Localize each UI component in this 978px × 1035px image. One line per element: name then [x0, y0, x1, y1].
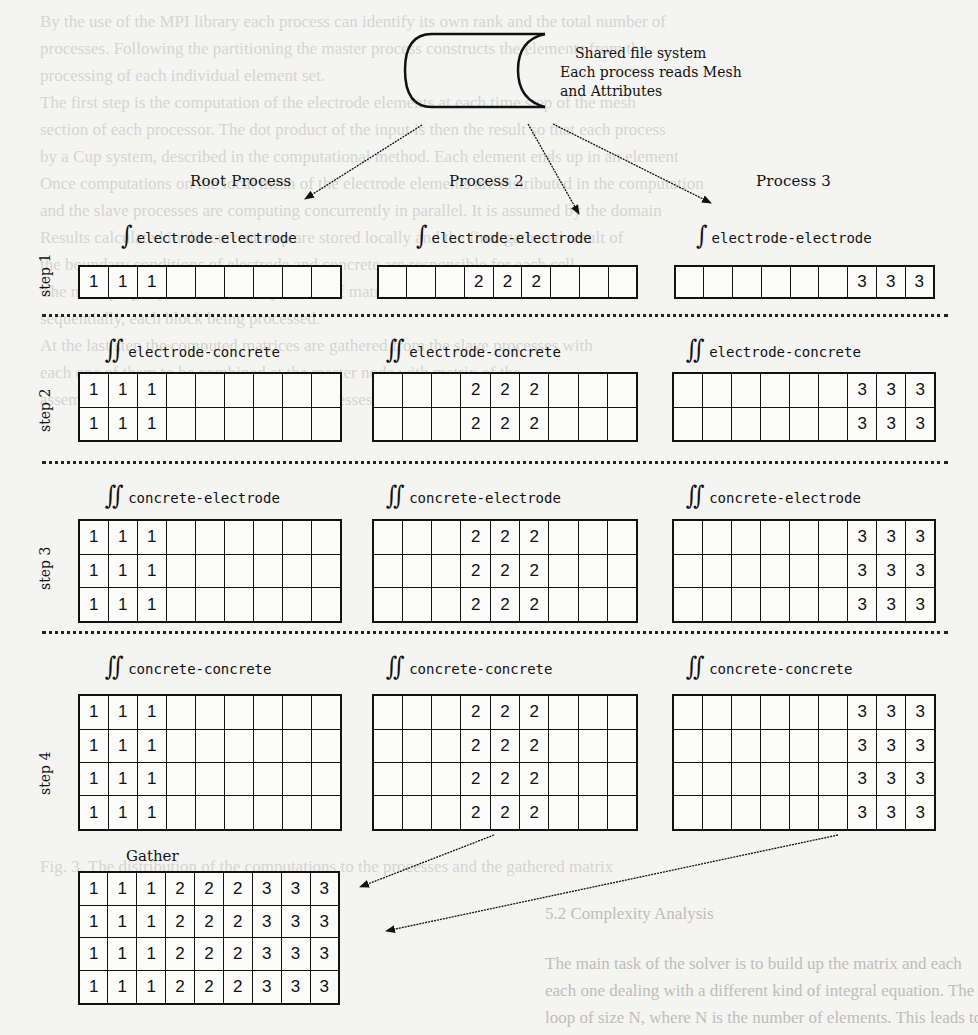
matrix-cell-filled: 1: [137, 695, 166, 729]
step-separator-1: [42, 314, 948, 317]
matrix-row: 222: [378, 266, 637, 298]
matrix-cell-empty: [733, 266, 762, 298]
double-integral-icon: ∬: [686, 338, 705, 360]
matrix-cell-filled: 3: [848, 729, 877, 762]
matrix-cell-filled: 1: [79, 554, 108, 587]
matrix-cell-empty: [225, 762, 254, 795]
double-integral-icon: ∬: [386, 338, 405, 360]
arrow-to-root-process: [305, 125, 422, 199]
matrix-cell-filled: 1: [137, 796, 166, 830]
matrix-cell-empty: [373, 729, 402, 762]
matrix-cell-filled: 2: [490, 695, 519, 729]
matrix-cell-empty: [789, 588, 818, 622]
matrix-cell-empty: [283, 588, 312, 622]
integral-term: concrete-electrode: [128, 490, 280, 506]
matrix-cell-empty: [702, 729, 731, 762]
matrix-step2-process2: 222222: [372, 372, 638, 442]
matrix-cell-filled: 1: [108, 872, 137, 905]
matrix-row: 111: [79, 266, 341, 298]
arrow-to-process-3: [553, 124, 711, 203]
matrix-cell-empty: [402, 729, 431, 762]
matrix-cell-empty: [578, 588, 607, 622]
matrix-row: 333: [673, 729, 935, 762]
matrix-row: 222: [373, 588, 637, 622]
matrix-cell-empty: [819, 520, 848, 554]
matrix-cell-empty: [578, 796, 607, 830]
matrix-cell-filled: 2: [461, 520, 490, 554]
step-4-label: step 4: [37, 752, 53, 795]
file-system-line-2: Each process reads Mesh: [560, 63, 742, 82]
matrix-cell-filled: 2: [520, 796, 549, 830]
double-integral-icon: ∬: [105, 484, 124, 506]
matrix-step4-process2: 222222222222: [372, 694, 638, 831]
matrix-cell-filled: 2: [464, 266, 493, 298]
matrix-row: 111: [79, 729, 341, 762]
matrix-cell-filled: 3: [281, 938, 310, 971]
matrix-step1-process3: 333: [674, 265, 935, 299]
matrix-cell-filled: 2: [490, 407, 519, 441]
matrix-cell-empty: [432, 407, 461, 441]
matrix-cell-filled: 1: [108, 796, 137, 830]
step-separator-3: [42, 631, 948, 634]
matrix-cell-empty: [731, 373, 760, 407]
matrix-cell-empty: [373, 554, 402, 587]
matrix-cell-filled: 1: [137, 762, 166, 795]
matrix-cell-filled: 3: [310, 905, 339, 938]
matrix-row: 333: [673, 520, 935, 554]
matrix-cell-filled: 2: [520, 762, 549, 795]
matrix-cell-filled: 2: [520, 588, 549, 622]
matrix-row: 333: [673, 554, 935, 587]
process-3-label: Process 3: [756, 172, 831, 190]
matrix-cell-empty: [549, 588, 578, 622]
matrix-cell-empty: [675, 266, 704, 298]
matrix-cell-filled: 3: [877, 762, 906, 795]
process-2-label: Process 2: [449, 172, 524, 190]
matrix-cell-empty: [578, 554, 607, 587]
matrix-row: 222: [373, 554, 637, 587]
matrix-cell-filled: 2: [461, 588, 490, 622]
matrix-cell-filled: 3: [310, 971, 339, 1004]
matrix-step4-process3: 333333333333: [672, 694, 936, 831]
step-2-label: step 2: [37, 389, 53, 432]
matrix-cell-empty: [402, 588, 431, 622]
double-integral-icon: ∬: [386, 655, 405, 677]
matrix-cell-empty: [673, 762, 702, 795]
matrix-cell-empty: [283, 373, 312, 407]
matrix-step1-process2: 222: [377, 265, 638, 299]
matrix-cell-empty: [254, 796, 283, 830]
integral-icon: ∫: [416, 224, 428, 246]
matrix-cell-filled: 2: [490, 762, 519, 795]
matrix-cell-empty: [702, 762, 731, 795]
matrix-cell-empty: [432, 588, 461, 622]
matrix-cell-empty: [819, 796, 848, 830]
matrix-cell-empty: [760, 520, 789, 554]
matrix-row: 222: [373, 695, 637, 729]
matrix-cell-filled: 2: [520, 520, 549, 554]
matrix-cell-empty: [195, 407, 224, 441]
shared-file-system-disk-icon: [405, 34, 545, 107]
matrix-cell-empty: [195, 520, 224, 554]
matrix-cell-filled: 1: [79, 588, 108, 622]
matrix-cell-empty: [402, 762, 431, 795]
matrix-cell-empty: [283, 762, 312, 795]
integral-label-step3-p3: ∬ concrete-electrode: [684, 484, 861, 506]
matrix-cell-empty: [195, 588, 224, 622]
matrix-cell-empty: [551, 266, 580, 298]
matrix-cell-empty: [608, 407, 637, 441]
arrow-to-process-2: [528, 124, 579, 214]
matrix-cell-empty: [704, 266, 733, 298]
matrix-cell-empty: [195, 729, 224, 762]
matrix-cell-filled: 1: [137, 266, 166, 298]
matrix-cell-empty: [225, 266, 254, 298]
matrix-cell-filled: 3: [906, 373, 935, 407]
matrix-cell-empty: [225, 695, 254, 729]
step-1-label: step 1: [37, 254, 53, 297]
matrix-cell-empty: [608, 266, 637, 298]
matrix-cell-filled: 1: [108, 373, 137, 407]
matrix-cell-empty: [579, 266, 608, 298]
matrix-cell-empty: [432, 520, 461, 554]
gather-label: Gather: [126, 847, 179, 865]
matrix-cell-empty: [373, 695, 402, 729]
matrix-cell-filled: 3: [906, 554, 935, 587]
matrix-cell-empty: [283, 796, 312, 830]
